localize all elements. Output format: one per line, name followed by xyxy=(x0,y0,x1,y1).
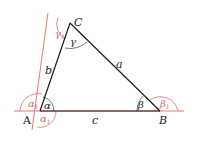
side-label-a: a xyxy=(116,58,123,71)
angle-label-beta: β xyxy=(137,99,144,110)
vertex-label-b: B xyxy=(158,114,167,127)
angle-label-gamma1: γ1 xyxy=(55,28,65,40)
gamma1-subscript: 1 xyxy=(61,33,65,40)
alpha1-top-subscript: 1 xyxy=(35,103,39,110)
triangle-diagram: C A B a b c γ α β γ1 α1 α1 β1 xyxy=(0,0,197,142)
angle-label-alpha1-bottom: α1 xyxy=(40,113,51,125)
vertex-label-a: A xyxy=(22,114,32,127)
beta1-subscript: 1 xyxy=(166,103,170,110)
angle-label-alpha1-top: α1 xyxy=(28,98,39,110)
angle-label-beta1: β1 xyxy=(159,98,170,110)
alpha1-bottom-subscript: 1 xyxy=(47,118,51,125)
angle-label-alpha: α xyxy=(44,100,51,111)
side-label-c: c xyxy=(92,114,98,127)
side-label-b: b xyxy=(45,64,52,77)
arc-gamma xyxy=(65,42,87,48)
vertex-label-c: C xyxy=(74,16,83,29)
angle-label-gamma: γ xyxy=(70,36,76,47)
side-a xyxy=(70,23,160,111)
